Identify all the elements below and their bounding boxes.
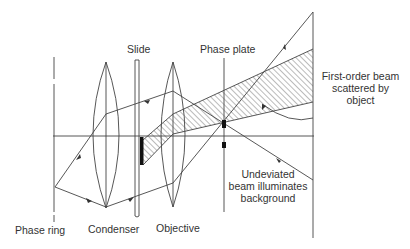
- label-first-order-line3: object: [313, 94, 408, 106]
- label-undeviated-line1: Undeviated: [228, 168, 308, 180]
- optical-diagram: [0, 0, 410, 249]
- label-objective: Objective: [156, 222, 200, 234]
- label-undeviated-line3: background: [228, 192, 308, 204]
- label-first-order-line2: scattered by: [313, 82, 408, 94]
- label-phase-plate: Phase plate: [200, 43, 255, 55]
- specimen: [140, 137, 144, 165]
- label-first-order-line1: First-order beam: [313, 70, 408, 82]
- label-first-order: First-order beam scattered by object: [313, 70, 408, 106]
- label-phase-ring: Phase ring: [15, 224, 65, 236]
- slide: [135, 60, 139, 217]
- phase-plate-block-lower: [222, 142, 226, 148]
- label-undeviated-line2: beam illuminates: [228, 180, 308, 192]
- phase-plate-block-upper: [222, 120, 226, 128]
- label-condenser: Condenser: [88, 223, 139, 235]
- label-slide: Slide: [127, 43, 150, 55]
- label-undeviated: Undeviated beam illuminates background: [228, 168, 308, 204]
- first-order-beam: [143, 49, 313, 165]
